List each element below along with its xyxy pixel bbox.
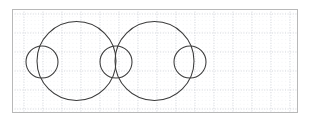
- circles-diagram: [0, 0, 310, 124]
- figure-root: [0, 0, 310, 124]
